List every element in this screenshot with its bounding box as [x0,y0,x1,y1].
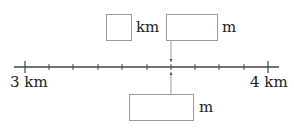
start-label: 3 km [10,75,48,90]
m-answer-box-bottom[interactable] [129,94,194,121]
down-arrow-icon [170,59,173,62]
m-unit-label-bottom: m [199,100,213,115]
end-label: 4 km [250,75,288,90]
up-arrow-icon [170,72,173,75]
